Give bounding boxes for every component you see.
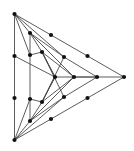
graph-node (12, 12, 16, 16)
graph-node (40, 100, 44, 104)
graph-node (40, 50, 44, 54)
graph-node (28, 119, 32, 123)
graph-node (95, 75, 99, 79)
graph-node (12, 138, 16, 142)
graph-node (72, 75, 76, 79)
graph-diagram (0, 0, 134, 151)
graph-node (12, 54, 16, 58)
graph-node (49, 117, 53, 121)
graph-node (28, 53, 32, 57)
graph-node (53, 75, 57, 79)
graph-node (12, 96, 16, 100)
graph-node (122, 75, 126, 79)
graph-node (85, 96, 89, 100)
graph-node (62, 95, 66, 99)
graph-node (28, 97, 32, 101)
graph-node (28, 31, 32, 35)
figure-background (0, 0, 134, 151)
figure-root (0, 0, 134, 151)
graph-node (62, 55, 66, 59)
graph-node (49, 33, 53, 37)
graph-node (85, 54, 89, 58)
